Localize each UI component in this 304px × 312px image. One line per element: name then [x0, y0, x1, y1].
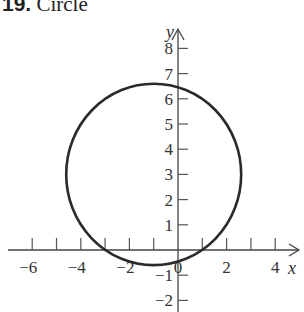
y-tick-label: 4	[165, 140, 174, 159]
x-tick-label: −4	[68, 258, 87, 277]
x-axis-label: x	[287, 258, 296, 278]
x-tick-label: 2	[222, 258, 231, 277]
y-tick-label: 2	[165, 191, 174, 210]
x-tick-label: −6	[19, 258, 37, 277]
y-tick-label: 7	[165, 65, 174, 84]
y-tick-label: 5	[165, 115, 174, 134]
x-tick-label: 4	[271, 258, 280, 277]
y-tick-label: −2	[155, 291, 173, 310]
circle-plot: −6−4−2024−2−112345678xy	[0, 0, 304, 312]
y-tick-label: 3	[165, 165, 174, 184]
y-tick-label: 6	[165, 90, 174, 109]
y-tick-label: 8	[165, 39, 174, 58]
y-axis-label: y	[164, 22, 174, 42]
y-tick-label: 1	[165, 216, 174, 235]
circle-curve	[66, 84, 241, 265]
y-tick-label: −1	[155, 266, 173, 285]
